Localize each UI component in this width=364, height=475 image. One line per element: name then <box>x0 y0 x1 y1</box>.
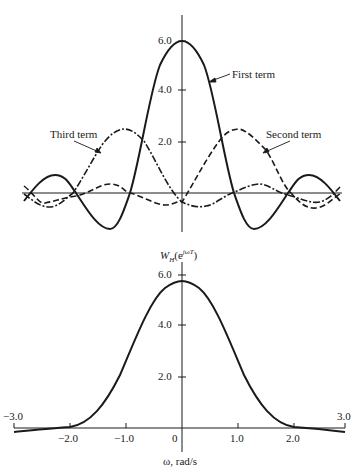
bottom-chart <box>14 262 345 452</box>
top-ytick-label-6: 6.0 <box>158 35 172 46</box>
top-ytick-label-2: 2.0 <box>158 136 172 147</box>
figure-canvas <box>0 0 364 475</box>
series-wh <box>14 281 345 432</box>
bottom-xtick-label-m3: −3.0 <box>3 411 23 422</box>
legend-second-term: Second term <box>266 129 321 140</box>
bottom-ytick-label-6: 6.0 <box>158 269 172 280</box>
arrow-third-term <box>74 141 99 152</box>
bottom-ytick-label-2: 2.0 <box>158 371 172 382</box>
ylabel-close: ) <box>194 249 198 261</box>
legend-third-term: Third term <box>50 129 97 140</box>
arrowhead-first-term <box>209 78 216 82</box>
bottom-xtick-label-2: 2.0 <box>286 433 300 444</box>
ylabel-sup: jωT <box>183 248 194 256</box>
ylabel-arg: (e <box>174 249 183 261</box>
arrow-second-term <box>265 141 290 152</box>
legend-first-term: First term <box>232 69 275 80</box>
top-chart <box>22 15 342 232</box>
bottom-ytick-label-4: 4.0 <box>158 319 172 330</box>
bottom-xtick-label-m1: −1.0 <box>114 433 134 444</box>
bottom-xtick-label-3: 3.0 <box>337 411 351 422</box>
bottom-xtick-label-0: 0 <box>172 433 178 444</box>
bottom-xtick-label-1: 1.0 <box>230 433 244 444</box>
ylabel-main: W <box>160 249 169 261</box>
bottom-y-axis-title: WH(ejωT) <box>160 249 197 264</box>
top-ytick-label-4: 4.0 <box>158 84 172 95</box>
bottom-x-axis-title: ω, rad/s <box>163 456 197 467</box>
bottom-xtick-label-m2: −2.0 <box>58 433 78 444</box>
